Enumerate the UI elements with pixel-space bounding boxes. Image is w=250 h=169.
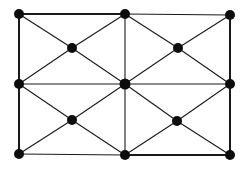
node-TM <box>120 9 130 19</box>
edge-Q4-BR <box>177 121 230 155</box>
edge-TL-Q1 <box>19 14 72 48</box>
edge-C-Q4 <box>125 84 177 121</box>
edge-BL-BM <box>19 154 125 155</box>
node-TR <box>225 10 235 20</box>
node-BR <box>225 150 235 160</box>
edge-Q1-ML <box>19 48 72 84</box>
edge-Q2-C <box>125 48 178 84</box>
edge-Q3-BM <box>72 120 125 155</box>
node-BM <box>120 150 130 160</box>
grid-graph-diagram <box>0 0 250 169</box>
node-MR <box>225 79 235 89</box>
node-Q2 <box>173 43 183 53</box>
edge-Q4-BM <box>125 121 177 155</box>
node-C <box>120 79 131 90</box>
node-TL <box>14 9 24 19</box>
node-Q4 <box>172 116 182 126</box>
edge-TM-Q1 <box>72 14 125 48</box>
edge-TR-Q2 <box>178 15 230 48</box>
edge-Q2-MR <box>178 48 230 84</box>
edge-C-Q3 <box>72 84 125 120</box>
edge-ML-Q3 <box>19 84 72 120</box>
node-ML <box>14 79 24 89</box>
edge-Q3-BL <box>19 120 72 154</box>
node-BL <box>14 149 24 159</box>
node-Q1 <box>67 43 77 53</box>
edge-TM-TR <box>125 14 230 15</box>
node-Q3 <box>67 115 77 125</box>
edge-Q1-C <box>72 48 125 84</box>
edge-MR-Q4 <box>177 84 230 121</box>
edge-TM-Q2 <box>125 14 178 48</box>
